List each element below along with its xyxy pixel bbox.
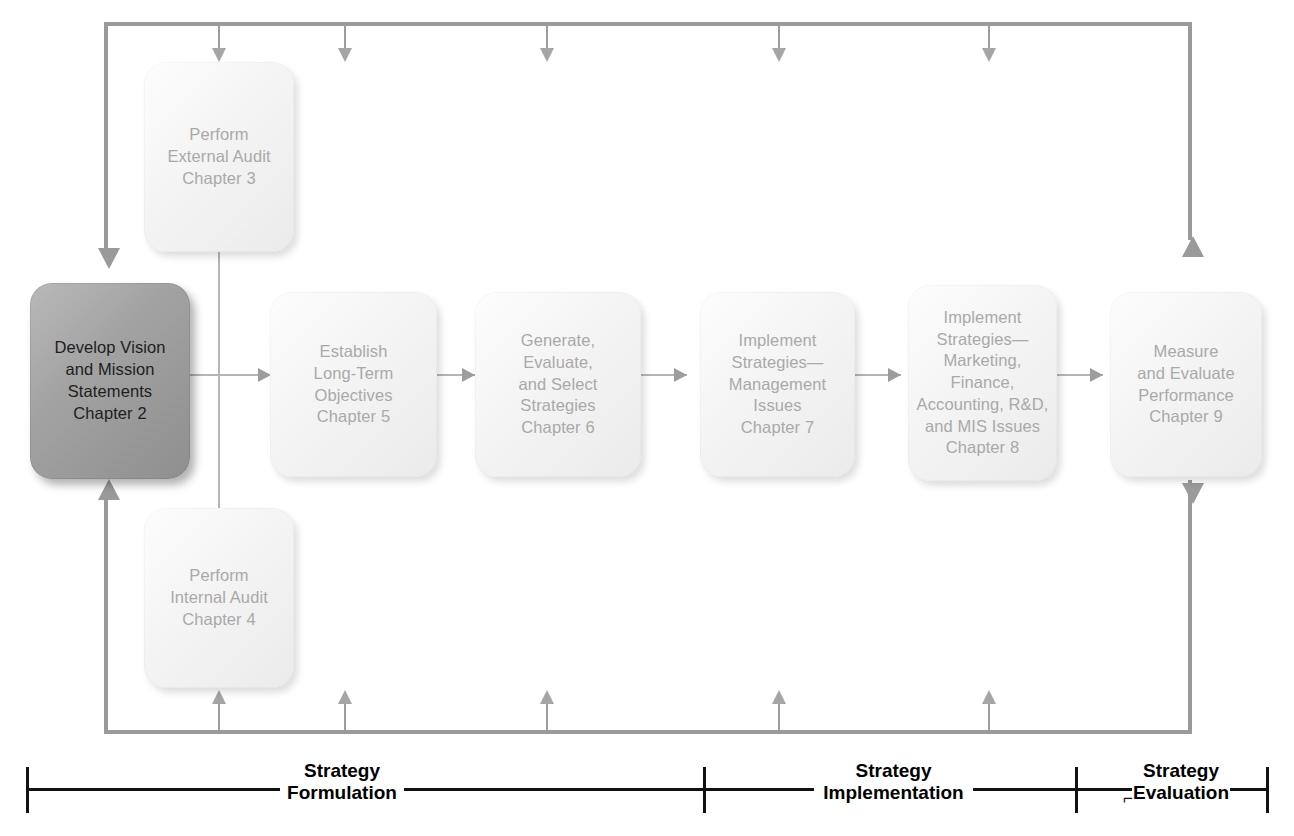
feedback-drop-arrow-1 — [212, 48, 226, 62]
feedback-rise-arrow-2 — [338, 690, 352, 704]
feedback-drop-arrow-3 — [540, 48, 554, 62]
node-label-vision-mission: Develop Vision and Mission Statements Ch… — [36, 337, 184, 424]
feedback-drop-stem-4 — [778, 24, 780, 50]
feedback-drop-arrow-5 — [982, 48, 996, 62]
node-label-implement-functional: Implement Strategies— Marketing, Finance… — [914, 307, 1051, 459]
node-label-implement-management: Implement Strategies— Management Issues … — [706, 330, 849, 439]
node-generate-evaluate-select-strategies[interactable]: Generate, Evaluate, and Select Strategie… — [475, 292, 641, 477]
arrow-down-to-vision-mission — [98, 248, 120, 269]
feedback-rise-arrow-1 — [212, 690, 226, 704]
legend-rule-implementation-left — [703, 788, 814, 791]
arrow-up-to-measure-evaluate — [1182, 236, 1204, 257]
feedback-drop-arrow-2 — [338, 48, 352, 62]
top-feedback-line — [104, 22, 1192, 26]
node-label-objectives: Establish Long-Term Objectives Chapter 5 — [276, 341, 431, 428]
feedback-drop-stem-5 — [988, 24, 990, 50]
node-measure-and-evaluate-performance[interactable]: Measure and Evaluate Performance Chapter… — [1110, 292, 1262, 477]
audit-column-connector — [218, 236, 220, 524]
feedback-rise-stem-1 — [218, 704, 220, 730]
legend-label-strategy-evaluation: Strategy Evaluation — [1132, 760, 1230, 805]
flow-arrow-functional-to-measure — [1090, 368, 1103, 382]
feedback-drop-stem-3 — [546, 24, 548, 50]
node-perform-internal-audit[interactable]: Perform Internal Audit Chapter 4 — [144, 508, 294, 688]
flow-arrow-objectives-to-strategies — [462, 368, 475, 382]
node-implement-strategies-management[interactable]: Implement Strategies— Management Issues … — [700, 292, 855, 477]
arrow-down-from-measure-evaluate — [1182, 483, 1204, 504]
feedback-rise-stem-2 — [344, 704, 346, 730]
node-implement-strategies-functional[interactable]: Implement Strategies— Marketing, Finance… — [908, 285, 1057, 481]
node-establish-long-term-objectives[interactable]: Establish Long-Term Objectives Chapter 5 — [270, 292, 437, 477]
legend-label-strategy-formulation: Strategy Formulation — [280, 760, 404, 805]
legend-rule-formulation-right — [404, 788, 703, 791]
legend-rule-implementation-right — [973, 788, 1075, 791]
feedback-rise-arrow-3 — [540, 690, 554, 704]
legend-rule-evaluation-right — [1230, 788, 1266, 791]
legend-label-strategy-implementation: Strategy Implementation — [814, 760, 973, 805]
node-label-internal-audit: Perform Internal Audit Chapter 4 — [150, 565, 288, 630]
strategic-management-model-diagram: Perform External Audit Chapter 3 Develop… — [0, 0, 1294, 836]
left-feedback-line-lower — [104, 500, 108, 732]
node-label-measure-evaluate: Measure and Evaluate Performance Chapter… — [1116, 341, 1256, 428]
flow-arrow-strategies-to-management — [674, 368, 687, 382]
flow-line-vision-to-objectives — [190, 374, 262, 376]
node-label-select-strategies: Generate, Evaluate, and Select Strategie… — [481, 330, 635, 439]
feedback-rise-arrow-4 — [772, 690, 786, 704]
right-feedback-line-upper — [1188, 22, 1192, 240]
left-feedback-line-upper — [104, 22, 108, 250]
node-label-external-audit: Perform External Audit Chapter 3 — [150, 124, 288, 189]
feedback-drop-stem-2 — [344, 24, 346, 50]
feedback-rise-stem-3 — [546, 704, 548, 730]
feedback-rise-stem-5 — [988, 704, 990, 730]
node-develop-vision-and-mission[interactable]: Develop Vision and Mission Statements Ch… — [30, 283, 190, 479]
node-perform-external-audit[interactable]: Perform External Audit Chapter 3 — [144, 62, 294, 252]
legend-rule-formulation-left — [26, 788, 280, 791]
legend-tick-right-end — [1266, 767, 1269, 813]
bottom-feedback-line — [104, 730, 1192, 734]
flow-arrow-management-to-functional — [888, 368, 901, 382]
right-feedback-line-lower — [1188, 480, 1192, 732]
feedback-drop-arrow-4 — [772, 48, 786, 62]
arrow-up-to-vision-mission — [98, 479, 120, 500]
legend-evaluation-tick-mark: ⌐ — [1123, 789, 1133, 809]
feedback-drop-stem-1 — [218, 24, 220, 50]
feedback-rise-stem-4 — [778, 704, 780, 730]
feedback-rise-arrow-5 — [982, 690, 996, 704]
